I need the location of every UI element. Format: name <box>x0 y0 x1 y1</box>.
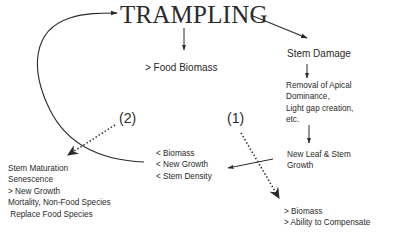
path-2-label: (2) <box>119 110 136 126</box>
outcome-2-line: Mortality, Non-Food Species <box>8 197 111 208</box>
outcome-1-node: > Biomass > Ability to Compensate <box>284 206 370 229</box>
less-effects-node: < Biomass < New Growth < Stem Density <box>156 148 212 182</box>
trampling-title: TRAMPLING <box>120 2 268 28</box>
food-biomass-node: > Food Biomass <box>145 62 218 74</box>
stem-damage-label: Stem Damage <box>287 48 351 59</box>
outcome-2-line: Senescence <box>8 174 111 185</box>
removal-line: Light gap creation, <box>286 103 353 114</box>
removal-line: Removal of Apical <box>286 80 353 91</box>
path-1-label: (1) <box>227 110 244 126</box>
outcome-2-line: > New Growth <box>8 186 111 197</box>
less-effects-line: < New Growth <box>156 159 212 170</box>
new-leaf-node: New Leaf & Stem Growth <box>287 149 351 172</box>
arrow-feedback-to-trampling <box>37 13 144 162</box>
dotted-arrow-path-1 <box>241 133 279 198</box>
removal-line: Dominance, <box>286 91 353 102</box>
new-leaf-line: New Leaf & Stem <box>287 149 351 160</box>
food-biomass-label: > Food Biomass <box>145 62 218 73</box>
outcome-1-line: > Biomass <box>284 206 370 217</box>
stem-damage-node: Stem Damage <box>287 48 351 60</box>
removal-line: etc. <box>286 114 353 125</box>
outcome-2-node: Stem Maturation Senescence > New Growth … <box>8 163 111 220</box>
removal-node: Removal of Apical Dominance, Light gap c… <box>286 80 353 126</box>
outcome-2-line: Stem Maturation <box>8 163 111 174</box>
arrow-new-leaf-to-less-effects <box>228 159 273 168</box>
less-effects-line: < Stem Density <box>156 171 212 182</box>
outcome-2-line: Replace Food Species <box>8 209 111 220</box>
less-effects-line: < Biomass <box>156 148 212 159</box>
outcome-1-line: > Ability to Compensate <box>284 217 370 228</box>
new-leaf-line: Growth <box>287 160 351 171</box>
